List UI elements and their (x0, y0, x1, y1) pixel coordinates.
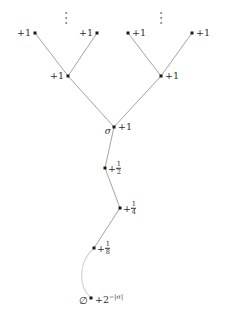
fraction-eighth-denominator: 8 (105, 248, 110, 256)
edge-midright-sigma (114, 76, 161, 127)
label-root-weight: +2−|σ| (95, 295, 123, 305)
node-leaf-2 (96, 32, 99, 35)
fraction-half: 12 (116, 161, 121, 175)
label-leaf-1: +1 (17, 28, 31, 38)
edge-leaf2-midleft (68, 33, 97, 76)
vertical-ellipsis-right (160, 12, 162, 24)
label-root-base: +2 (95, 294, 109, 305)
edge-midleft-sigma (68, 76, 114, 127)
label-sigma-weight: +1 (118, 122, 132, 132)
node-mid-right (160, 75, 163, 78)
fraction-eighth-numerator: 1 (105, 241, 110, 248)
label-leaf-2: +1 (79, 28, 93, 38)
fraction-quarter: 14 (131, 201, 136, 215)
vertical-ellipsis-left (65, 12, 67, 24)
label-sigma-name: σ (105, 127, 111, 136)
label-quarter: +14 (123, 201, 136, 215)
fraction-quarter-numerator: 1 (131, 201, 136, 208)
node-half (104, 167, 107, 170)
node-leaf-4 (191, 32, 194, 35)
label-leaf-3: +1 (132, 28, 146, 38)
node-sigma (113, 126, 116, 129)
node-leaf-1 (34, 32, 37, 35)
label-eighth-sign: + (97, 243, 105, 254)
label-mid-left: +1 (50, 71, 64, 81)
label-root-name: ∅ (79, 296, 88, 306)
edge-eighth-root-curved (82, 248, 94, 298)
label-mid-right: +1 (165, 71, 179, 81)
fraction-half-denominator: 2 (116, 168, 121, 176)
fraction-half-numerator: 1 (116, 161, 121, 168)
tree-diagram-figure: +1 +1 +1 +1 +1 +1 σ +1 +12 +14 +18 ∅ +2−… (0, 0, 226, 324)
label-half-sign: + (108, 163, 116, 174)
node-quarter (119, 207, 122, 210)
label-root-exponent: −|σ| (109, 293, 123, 301)
label-eighth: +18 (97, 241, 110, 255)
node-root (90, 297, 93, 300)
node-leaf-3 (127, 32, 130, 35)
fraction-quarter-denominator: 4 (131, 208, 136, 216)
label-quarter-sign: + (123, 203, 131, 214)
label-leaf-4: +1 (196, 28, 210, 38)
edge-leaf3-midright (128, 33, 161, 76)
fraction-eighth: 18 (105, 241, 110, 255)
label-half: +12 (108, 161, 121, 175)
node-eighth (93, 247, 96, 250)
node-mid-left (67, 75, 70, 78)
